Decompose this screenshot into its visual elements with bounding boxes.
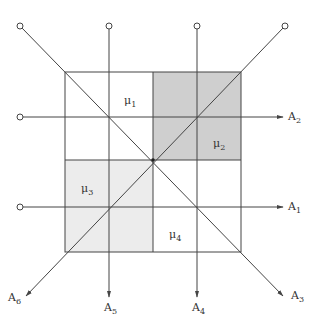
region-mu2-label: μ2 <box>213 138 225 152</box>
mu1-subscript: 1 <box>131 100 136 109</box>
axis-a6-origin-icon <box>282 23 288 29</box>
a1-letter: A <box>288 200 296 213</box>
mu4-subscript: 4 <box>176 234 181 243</box>
axis-a1-label: A1 <box>288 201 301 215</box>
axis-a2-label: A2 <box>288 111 301 125</box>
axis-a4-origin-icon <box>194 23 200 29</box>
axis-a3-label: A3 <box>291 290 304 304</box>
mu3-subscript: 3 <box>88 188 93 197</box>
axis-a1-origin-icon <box>17 204 23 210</box>
region-mu4-label: μ4 <box>169 229 181 243</box>
region-mu3-label: μ3 <box>81 183 93 197</box>
axis-a2-origin-icon <box>17 114 23 120</box>
axis-a3-origin-icon <box>17 23 23 29</box>
a4-letter: A <box>192 301 200 314</box>
axis-a6-label: A6 <box>8 292 21 306</box>
diagram-canvas: μ1 μ2 μ3 μ4 A1 A2 A3 A4 A5 A6 <box>0 0 315 327</box>
a6-subscript: 6 <box>16 297 21 306</box>
a4-subscript: 4 <box>200 307 205 316</box>
axis-a4-label: A4 <box>192 302 205 316</box>
mu2-subscript: 2 <box>220 143 225 152</box>
a5-letter: A <box>104 301 112 314</box>
a2-subscript: 2 <box>296 116 301 125</box>
region-mu1-label: μ1 <box>124 95 136 109</box>
a6-letter: A <box>8 291 16 304</box>
axis-a5-label: A5 <box>104 302 117 316</box>
a1-subscript: 1 <box>296 206 301 215</box>
diagram-svg <box>0 0 315 327</box>
a5-subscript: 5 <box>112 307 117 316</box>
center-point <box>151 158 155 162</box>
a3-letter: A <box>291 289 299 302</box>
axis-a5-origin-icon <box>106 23 112 29</box>
a2-letter: A <box>288 110 296 123</box>
a3-subscript: 3 <box>299 295 304 304</box>
